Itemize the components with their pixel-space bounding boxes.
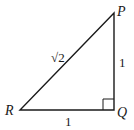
vertex-label-q: Q xyxy=(117,105,127,120)
side-label-rp: √2 xyxy=(51,50,65,65)
vertex-label-p: P xyxy=(116,4,126,19)
vertex-label-r: R xyxy=(4,103,14,118)
triangle-pqr xyxy=(20,13,114,110)
triangle-diagram: P Q R 1 1 √2 xyxy=(0,0,134,130)
side-label-qp: 1 xyxy=(119,55,126,70)
side-label-rq: 1 xyxy=(65,114,72,129)
right-angle-marker xyxy=(103,99,114,110)
